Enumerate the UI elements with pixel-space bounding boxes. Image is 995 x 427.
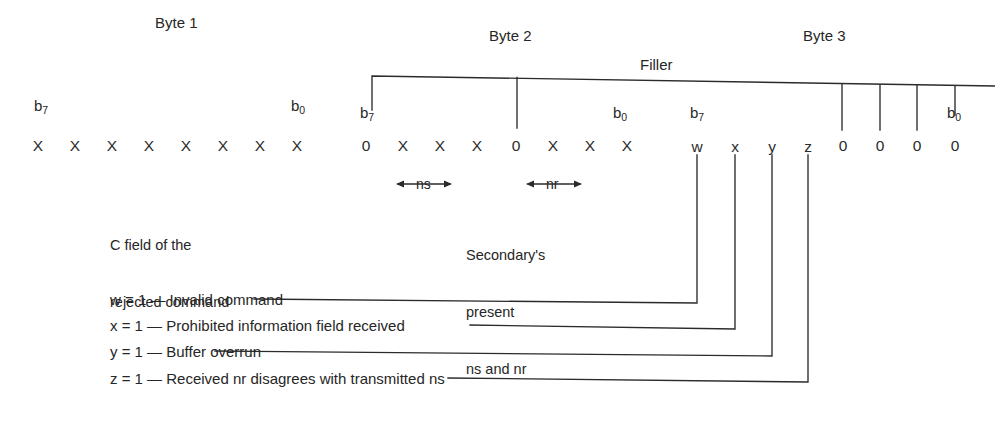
byte3-bit-0: 0 [947, 138, 963, 154]
legend-row-x: x = 1 — Prohibited information field rec… [110, 318, 405, 333]
byte-title-3: Byte 3 [803, 28, 846, 43]
byte-title-2: Byte 2 [489, 28, 532, 43]
byte2-bit-1: X [582, 138, 598, 154]
nr-span-label: nr [546, 177, 558, 191]
byte3-bit-2: 0 [872, 138, 888, 154]
byte3-lsb-index: 0 [955, 111, 961, 123]
ns-span-label: ns [416, 177, 431, 191]
byte1-bit-5: X [104, 138, 120, 154]
frmr-frame-format-diagram: Byte 1 Byte 2 Byte 3 Filler b7 b0 X X X … [0, 0, 995, 427]
byte2-lsb-marker: b0 [613, 105, 627, 122]
byte2-bit-3: 0 [508, 138, 524, 154]
byte1-bit-4: X [141, 138, 157, 154]
byte-title-1: Byte 1 [155, 15, 198, 30]
byte3-msb-index: 7 [698, 111, 704, 123]
nr-arrow-right [574, 181, 582, 188]
byte3-bit-3: 0 [835, 138, 851, 154]
note-c-field-line-1: C field of the [110, 236, 229, 255]
note-secondary-line-1: Secondary's [466, 246, 545, 265]
note-secondary-line-2: present [466, 303, 545, 322]
legend-row-y: y = 1 — Buffer overrun [110, 344, 261, 359]
byte2-bit-7: 0 [358, 138, 374, 154]
byte1-bit-1: X [252, 138, 268, 154]
byte2-lsb-index: 0 [621, 111, 627, 123]
note-secondary: Secondary's present ns and nr [466, 208, 545, 417]
byte1-msb-marker: b7 [34, 98, 48, 115]
ns-arrow-right [444, 181, 452, 188]
byte1-lsb-marker: b0 [291, 98, 305, 115]
ns-arrow-left [396, 181, 404, 188]
byte3-bit-4-z: z [800, 139, 816, 155]
byte1-bit-2: X [215, 138, 231, 154]
byte3-bit-1: 0 [909, 138, 925, 154]
legend-row-w: w = 1 — Invalid command [110, 292, 283, 307]
byte1-bit-0: X [289, 138, 305, 154]
byte3-bit-6-x: x [727, 139, 743, 155]
byte3-bit-7-w: w [689, 139, 705, 155]
byte2-bit-5: X [432, 138, 448, 154]
filler-bracket-rail [372, 76, 995, 110]
filler-label: Filler [640, 57, 673, 72]
byte3-msb-marker: b7 [690, 105, 704, 122]
note-secondary-line-3: ns and nr [466, 360, 545, 379]
byte1-bit-6: X [67, 138, 83, 154]
byte2-msb-index: 7 [368, 111, 374, 123]
byte2-bit-4: X [469, 138, 485, 154]
byte3-bit-5-y: y [764, 139, 780, 155]
byte2-bit-6: X [395, 138, 411, 154]
byte1-msb-index: 7 [42, 104, 48, 116]
byte1-lsb-index: 0 [299, 104, 305, 116]
byte2-bit-0: X [619, 138, 635, 154]
byte3-lsb-marker: b0 [947, 105, 961, 122]
nr-arrow-left [526, 181, 534, 188]
byte1-bit-7: X [30, 138, 46, 154]
byte1-bit-3: X [178, 138, 194, 154]
byte2-msb-marker: b7 [360, 105, 374, 122]
byte2-bit-2: X [545, 138, 561, 154]
legend-row-z: z = 1 — Received nr disagrees with trans… [110, 371, 445, 386]
